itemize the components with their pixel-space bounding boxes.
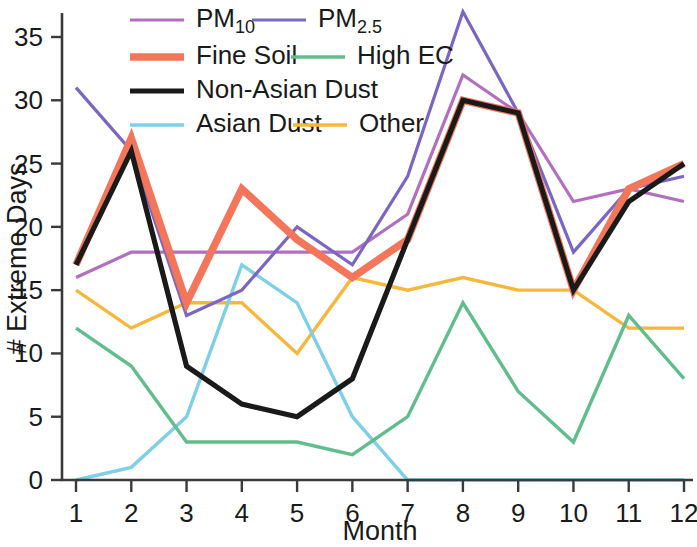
- y-axis-tick-label: 35: [14, 22, 43, 52]
- x-axis-tick-label: 12: [670, 498, 697, 528]
- x-axis-title: Month: [342, 516, 417, 546]
- chart-legend: PM10PM2.5Fine SoilHigh ECNon-Asian DustA…: [130, 3, 454, 138]
- legend-label-main: Non-Asian Dust: [196, 74, 379, 104]
- legend-label-main: PM: [196, 3, 235, 33]
- legend-item-pm10[interactable]: PM10: [130, 3, 255, 37]
- x-axis-tick-label: 2: [124, 498, 138, 528]
- legend-label: High EC: [357, 40, 454, 70]
- y-axis-tick-label: 30: [14, 85, 43, 115]
- legend-item-pm2.5[interactable]: PM2.5: [252, 3, 382, 37]
- legend-label-main: Fine Soil: [196, 40, 297, 70]
- legend-item-non-asian-dust[interactable]: Non-Asian Dust: [130, 74, 379, 104]
- legend-label-main: Asian Dust: [196, 108, 322, 138]
- y-axis-title: # Extreme Days: [2, 162, 32, 354]
- legend-label: Asian Dust: [196, 108, 322, 138]
- x-axis-tick-label: 4: [235, 498, 249, 528]
- legend-label: PM10: [196, 3, 255, 37]
- x-axis-tick-label: 1: [69, 498, 83, 528]
- x-axis-tick-label: 9: [511, 498, 525, 528]
- series-line-high-ec: [76, 303, 684, 455]
- legend-item-high-ec[interactable]: High EC: [291, 40, 454, 70]
- legend-label-main: PM: [318, 3, 357, 33]
- legend-label-main: Other: [359, 108, 424, 138]
- x-axis-tick-label: 8: [456, 498, 470, 528]
- x-axis-tick-label: 11: [615, 498, 642, 528]
- y-axis-tick-label: 5: [29, 402, 43, 432]
- chart-plot-area: 05101520253035123456789101112 # Extreme …: [0, 0, 697, 547]
- legend-item-asian-dust[interactable]: Asian Dust: [130, 108, 322, 138]
- legend-item-fine-soil[interactable]: Fine Soil: [130, 40, 297, 70]
- x-axis-tick-label: 5: [290, 498, 304, 528]
- x-axis-tick-label: 3: [179, 498, 193, 528]
- legend-label: Fine Soil: [196, 40, 297, 70]
- legend-label-subscript: 2.5: [357, 17, 382, 37]
- legend-label: Non-Asian Dust: [196, 74, 379, 104]
- legend-label-main: High EC: [357, 40, 454, 70]
- y-axis-tick-label: 0: [29, 465, 43, 495]
- chart-figure: 05101520253035123456789101112 # Extreme …: [0, 0, 697, 547]
- legend-label: PM2.5: [318, 3, 382, 37]
- x-axis-tick-label: 10: [559, 498, 588, 528]
- legend-label: Other: [359, 108, 424, 138]
- series-layer: [76, 12, 684, 480]
